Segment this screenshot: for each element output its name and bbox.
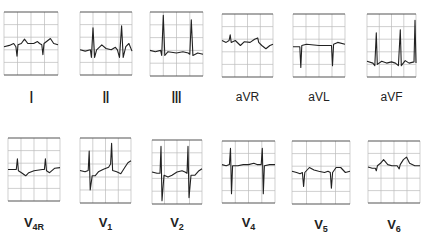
lead-label-i: Ⅰ bbox=[4, 88, 58, 107]
lead-label-v5: V5 bbox=[292, 217, 350, 234]
ecg-grid-and-trace bbox=[292, 141, 350, 204]
ecg-grid-and-trace bbox=[80, 138, 131, 203]
ecg-panel-v4 bbox=[222, 141, 275, 203]
ecg-grid-and-trace bbox=[222, 14, 273, 77]
lead-label-v4: V4 bbox=[222, 215, 275, 232]
ecg-panel-ii bbox=[80, 12, 132, 75]
ecg-grid-and-trace bbox=[8, 138, 60, 201]
lead-label-subscript: 6 bbox=[396, 224, 401, 234]
ecg-panel-v1 bbox=[80, 138, 131, 203]
lead-label-base: V bbox=[170, 215, 179, 230]
ecg-grid-and-trace bbox=[293, 14, 345, 77]
lead-label-subscript: 5 bbox=[323, 224, 328, 234]
ecg-panel-v4r bbox=[8, 138, 60, 201]
lead-label-v1: V1 bbox=[80, 215, 131, 232]
lead-label-v2: V2 bbox=[152, 215, 202, 232]
ecg-panel-v2 bbox=[152, 140, 202, 204]
ecg-grid-and-trace bbox=[152, 140, 202, 204]
lead-label-subscript: 1 bbox=[107, 222, 112, 232]
lead-label-avf: aVF bbox=[367, 90, 416, 104]
ecg-panel-v5 bbox=[292, 141, 350, 204]
lead-label-avr: aVR bbox=[222, 90, 273, 104]
ecg-panel-avl bbox=[293, 14, 345, 77]
lead-label-avl: aVL bbox=[293, 90, 345, 104]
ecg-panel-i bbox=[4, 12, 58, 75]
ecg-grid-and-trace bbox=[80, 12, 132, 75]
lead-label-base: V bbox=[24, 215, 33, 230]
ecg-grid-and-trace bbox=[368, 141, 420, 203]
ecg-panel-v6 bbox=[368, 141, 420, 203]
lead-label-subscript: 2 bbox=[179, 222, 184, 232]
ecg-grid-and-trace bbox=[4, 12, 58, 75]
ecg-grid-and-trace bbox=[150, 12, 203, 76]
lead-label-ii: Ⅱ bbox=[80, 88, 132, 107]
lead-label-base: V bbox=[387, 217, 396, 232]
lead-label-subscript: 4R bbox=[33, 222, 45, 232]
ecg-panel-avr bbox=[222, 14, 273, 77]
ecg-grid-and-trace bbox=[367, 14, 416, 77]
ecg-grid-and-trace bbox=[222, 141, 275, 203]
ecg-panel-avf bbox=[367, 14, 416, 77]
lead-label-iii: Ⅲ bbox=[150, 88, 203, 107]
ecg-panel-iii bbox=[150, 12, 203, 76]
lead-label-v6: V6 bbox=[368, 217, 420, 234]
lead-label-base: V bbox=[314, 217, 323, 232]
lead-label-v4r: V4R bbox=[8, 215, 60, 232]
lead-label-subscript: 4 bbox=[250, 222, 255, 232]
